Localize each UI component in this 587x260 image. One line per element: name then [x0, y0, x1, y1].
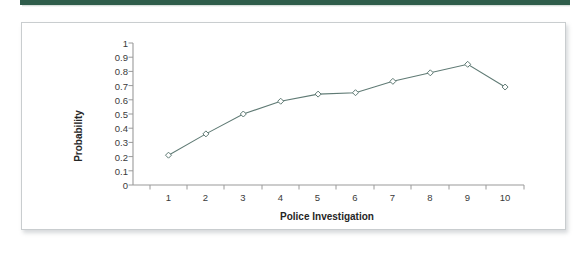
x-tick-label: 1: [166, 192, 171, 203]
x-tick-label: 3: [240, 192, 245, 203]
series-markers: [166, 61, 509, 158]
x-tick-label: 6: [352, 192, 357, 203]
x-tick-labels: 1 2 3 4 5 6 7 8 9 10: [166, 192, 510, 203]
x-tick-label: 4: [278, 192, 283, 203]
y-tick-label: 0.5: [115, 109, 128, 120]
y-tick-label: 1: [123, 38, 128, 49]
data-point-marker: [166, 152, 172, 158]
line-chart: Probability 1 0.9 0.8 0.7 0.6 0.5 0.4 0.…: [22, 23, 565, 229]
x-axis-title: Police Investigation: [280, 211, 374, 222]
x-tick-label: 7: [390, 192, 395, 203]
x-tick-label: 10: [500, 192, 511, 203]
x-tick-label: 2: [203, 192, 208, 203]
y-tick-label: 0.4: [115, 123, 128, 134]
top-rule-shadow: [22, 5, 570, 7]
data-point-marker: [502, 84, 508, 90]
x-tick-label: 8: [427, 192, 432, 203]
y-axis-title: Probability: [73, 110, 84, 162]
series-line-probability: [169, 64, 506, 155]
y-tick-label: 0.8: [115, 66, 128, 77]
y-axis: [129, 43, 134, 185]
data-point-marker: [353, 90, 359, 96]
y-tick-label: 0.2: [115, 152, 128, 163]
data-point-marker: [315, 91, 321, 97]
data-point-marker: [465, 61, 471, 67]
data-point-marker: [427, 70, 433, 76]
data-point-marker: [390, 78, 396, 84]
figure-card: Probability 1 0.9 0.8 0.7 0.6 0.5 0.4 0.…: [21, 22, 566, 230]
y-tick-label: 0.6: [115, 95, 128, 106]
x-axis: [133, 185, 524, 190]
screenshot-root: Probability 1 0.9 0.8 0.7 0.6 0.5 0.4 0.…: [0, 0, 587, 260]
x-tick-label: 9: [465, 192, 470, 203]
x-tick-label: 5: [315, 192, 320, 203]
data-point-marker: [278, 98, 284, 104]
y-tick-label: 0.9: [115, 52, 128, 63]
y-tick-label: 0.7: [115, 81, 128, 92]
data-point-marker: [203, 131, 209, 137]
y-tick-label: 0: [123, 180, 128, 191]
y-tick-labels: 1 0.9 0.8 0.7 0.6 0.5 0.4 0.3 0.2 0.1 0: [115, 38, 128, 191]
data-point-marker: [240, 111, 246, 117]
y-tick-label: 0.1: [115, 166, 128, 177]
y-tick-label: 0.3: [115, 137, 128, 148]
